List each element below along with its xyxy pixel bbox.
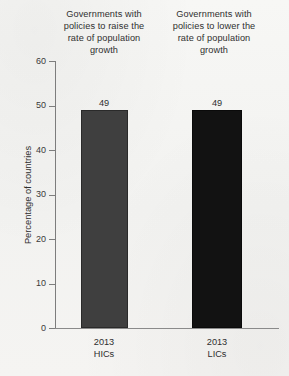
y-tick-mark: [49, 239, 55, 240]
y-tick-mark: [49, 106, 55, 107]
y-tick-label: 0: [20, 324, 46, 333]
bar-chart: Governments with policies to raise the r…: [0, 0, 289, 376]
x-axis-line: [55, 328, 279, 329]
x-tick-year-lics: 2013: [207, 337, 227, 347]
y-tick-label: 10: [20, 279, 46, 288]
x-tick-group-lics: LICs: [172, 348, 262, 360]
column-header-raise: Governments with policies to raise the r…: [56, 8, 152, 56]
y-tick-mark: [49, 284, 55, 285]
y-tick-label: 50: [20, 101, 46, 110]
bar-value-label-hics: 49: [84, 99, 124, 108]
x-tick-label-lics: 2013 LICs: [172, 336, 262, 360]
y-tick-mark: [49, 150, 55, 151]
x-tick-group-hics: HICs: [59, 348, 149, 360]
y-axis-line: [55, 61, 56, 329]
bar-lics[interactable]: [192, 110, 242, 328]
bar-value-label-lics: 49: [197, 99, 237, 108]
y-axis-title: Percentage of countries: [23, 115, 33, 275]
bar-hics[interactable]: [81, 110, 128, 328]
y-tick-mark: [49, 195, 55, 196]
column-header-lower: Governments with policies to lower the r…: [166, 8, 262, 56]
x-tick-year-hics: 2013: [94, 337, 114, 347]
x-tick-label-hics: 2013 HICs: [59, 336, 149, 360]
y-tick-mark: [49, 328, 55, 329]
y-tick-mark: [49, 61, 55, 62]
y-tick-label: 60: [20, 57, 46, 66]
